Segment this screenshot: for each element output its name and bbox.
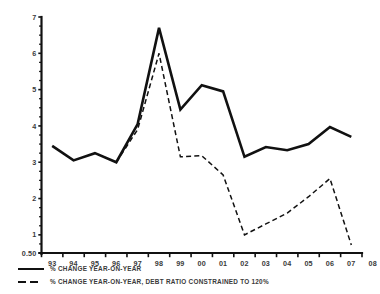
y-tick-label: 3 <box>32 158 36 167</box>
y-tick-label: 6 <box>32 49 36 58</box>
legend-item-solid: % CHANGE YEAR-ON-YEAR <box>18 262 368 275</box>
series-group <box>52 28 351 245</box>
y-tick-label: 1 <box>32 230 36 239</box>
legend-label-dashed: % CHANGE YEAR-ON-YEAR, DEBT RATIO CONSTR… <box>50 278 269 285</box>
series-line-solid <box>52 28 351 162</box>
y-tick-label: 5 <box>32 85 36 94</box>
legend-item-dashed: % CHANGE YEAR-ON-YEAR, DEBT RATIO CONSTR… <box>18 275 368 288</box>
y-tick-labels: 76543210.50 <box>22 13 37 258</box>
y-tick-label: 4 <box>32 122 36 131</box>
y-tick-label: 2 <box>32 194 36 203</box>
y-axis <box>38 17 41 254</box>
chart-legend: % CHANGE YEAR-ON-YEAR % CHANGE YEAR-ON-Y… <box>18 262 368 288</box>
legend-label-solid: % CHANGE YEAR-ON-YEAR <box>50 265 141 272</box>
legend-swatch-dashed-icon <box>18 277 44 287</box>
x-axis <box>40 253 363 257</box>
y-tick-label: 7 <box>32 13 36 22</box>
legend-swatch-solid-icon <box>18 264 44 274</box>
chart-plot-area: 76543210.50 9394959697989900010203040506… <box>0 0 380 294</box>
chart-container: 76543210.50 9394959697989900010203040506… <box>0 0 380 294</box>
x-tick-label: 08 <box>368 259 376 268</box>
series-line-dashed <box>116 53 351 245</box>
y-tick-label: 0.50 <box>22 249 37 258</box>
